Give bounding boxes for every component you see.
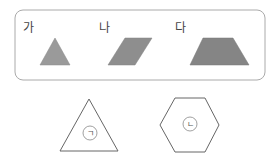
label-ga: 가	[23, 21, 34, 35]
label-na: 나	[99, 21, 110, 35]
marker-nieun: ㄴ	[187, 120, 194, 129]
diagram-canvas: 가 나 다 ㄱ ㄴ	[0, 0, 274, 162]
label-da: 다	[175, 21, 186, 35]
marker-giyeok: ㄱ	[87, 129, 94, 138]
shape-triangle-outline	[60, 99, 118, 151]
